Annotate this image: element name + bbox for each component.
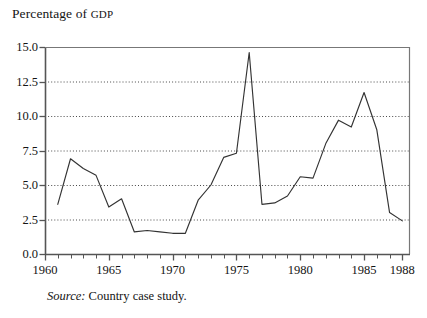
source-text: Country case study. bbox=[85, 289, 186, 303]
y-axis-tick-label: 15.0 bbox=[4, 41, 38, 54]
y-axis-tick-label: 12.5 bbox=[4, 76, 38, 89]
y-axis-tick-label: 0.0 bbox=[4, 248, 38, 261]
x-axis-tick-label: 1980 bbox=[277, 264, 323, 277]
x-axis-tick-label: 1970 bbox=[150, 264, 196, 277]
axis-major-ticks bbox=[40, 48, 46, 255]
source-note: Source: Country case study. bbox=[47, 289, 187, 304]
x-axis-tick-label: 1988 bbox=[379, 264, 425, 277]
y-axis-tick-label: 10.0 bbox=[4, 110, 38, 123]
data-series-line bbox=[58, 53, 403, 234]
y-axis-tick-label: 2.5 bbox=[4, 214, 38, 227]
gridlines-group bbox=[45, 82, 410, 220]
x-axis-tick-label: 1960 bbox=[22, 264, 68, 277]
x-axis-tick-label: 1975 bbox=[213, 264, 259, 277]
x-axis-tick-label: 1965 bbox=[86, 264, 132, 277]
source-label: Source: bbox=[47, 289, 85, 303]
y-axis-tick-label: 7.5 bbox=[4, 145, 38, 158]
y-axis-tick-label: 5.0 bbox=[4, 179, 38, 192]
figure-container: Percentage of GDP 0.02.55.07.510.012.515… bbox=[0, 0, 427, 318]
